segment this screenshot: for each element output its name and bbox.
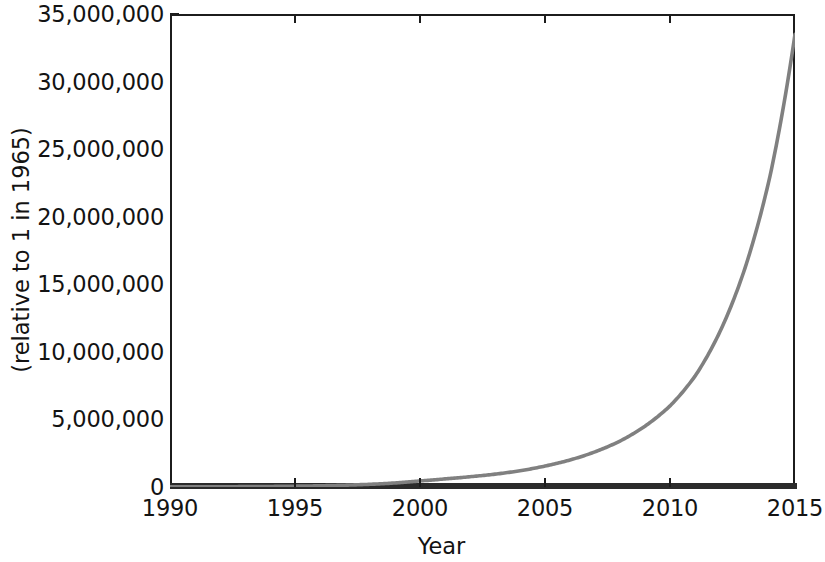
x-tick-label: 1990	[142, 497, 198, 520]
x-axis-label-text: Year	[418, 533, 466, 559]
x-tick-mark	[419, 478, 422, 487]
x-tick-mark	[544, 478, 547, 487]
x-tick-mark	[669, 478, 672, 487]
x-tick-label: 1995	[267, 497, 323, 520]
chart-figure: 05,000,00010,000,00015,000,00020,000,000…	[0, 0, 825, 562]
series-line	[170, 34, 795, 487]
x-tick-mark-top	[544, 14, 547, 23]
x-tick-mark-top	[419, 14, 422, 23]
y-tick-label: 20,000,000	[37, 206, 164, 229]
x-tick-mark	[294, 478, 297, 487]
y-tick-label: 15,000,000	[37, 273, 164, 296]
y-tick-label: 5,000,000	[51, 408, 164, 431]
x-tick-mark-top	[669, 14, 672, 23]
y-tick-label: 25,000,000	[37, 138, 164, 161]
x-tick-label: 2005	[517, 497, 573, 520]
y-tick-label: 35,000,000	[37, 3, 164, 26]
x-tick-label: 2015	[767, 497, 823, 520]
x-tick-mark-top	[294, 14, 297, 23]
exponential-growth-curve	[170, 14, 795, 487]
y-axis-label: (relative to 1 in 1965)	[6, 5, 36, 495]
y-tick-label: 30,000,000	[37, 71, 164, 94]
x-axis-label: Year	[0, 533, 825, 559]
x-tick-label: 2000	[392, 497, 448, 520]
x-tick-label: 2010	[642, 497, 698, 520]
y-tick-label: 10,000,000	[37, 341, 164, 364]
